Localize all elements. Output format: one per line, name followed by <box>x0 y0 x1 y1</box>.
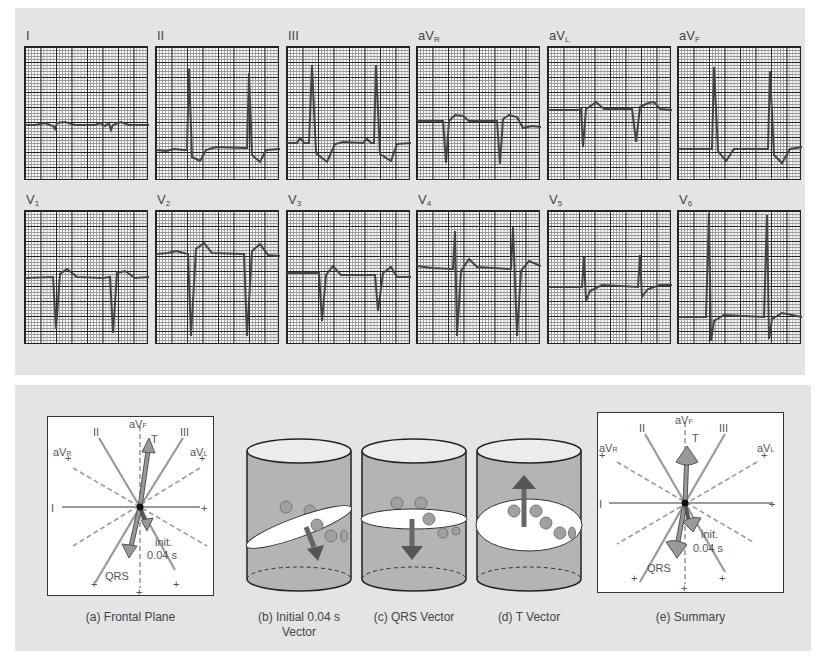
lead-V1: V1 <box>24 193 148 345</box>
svg-text:+: + <box>599 449 605 461</box>
lead-aVL: aVL <box>547 29 671 181</box>
lead-label: V <box>157 192 166 207</box>
axis-label-II: II <box>93 426 99 438</box>
lead-II: II <box>155 29 279 181</box>
svg-text:+: + <box>681 582 687 593</box>
svg-text:+: + <box>631 572 637 584</box>
ecg-strip <box>155 46 279 180</box>
cylinder-qrs-vector <box>359 437 469 593</box>
ecg-strip <box>677 46 801 180</box>
axis-label-I: I <box>51 502 54 514</box>
svg-text:+: + <box>91 578 97 590</box>
lead-label: aV <box>418 28 434 43</box>
init-label: init. <box>701 528 718 540</box>
lead-V2: V2 <box>155 193 279 345</box>
lead-V5: V5 <box>547 193 671 345</box>
lead-aVF: aVF <box>677 29 801 181</box>
svg-text:+: + <box>719 572 725 584</box>
lead-V6: V6 <box>677 193 801 345</box>
caption-a: (a) Frontal Plane <box>47 610 214 625</box>
svg-text:+: + <box>199 452 205 464</box>
lead-label: aV <box>549 28 565 43</box>
lead-label: aV <box>679 28 695 43</box>
svg-text:+: + <box>136 586 142 596</box>
svg-text:+: + <box>769 498 775 510</box>
vector-diagrams-panel: I II III aVR aVL aVF T QRS init. 0.04 s … <box>15 385 811 651</box>
t-label: T <box>151 433 158 445</box>
lead-label: I <box>26 28 30 43</box>
origin-dot <box>137 504 144 511</box>
ecg-strip <box>416 46 540 180</box>
lead-label: V <box>679 192 688 207</box>
lead-label: V <box>26 192 35 207</box>
init-time-label: 0.04 s <box>693 542 723 554</box>
cylinder-initial-vector <box>244 437 354 593</box>
lead-label: II <box>157 28 164 43</box>
caption-d: (d) T Vector <box>464 610 594 625</box>
t-label: T <box>692 432 699 444</box>
svg-text:+: + <box>65 452 71 464</box>
axis-label-III: III <box>180 426 189 438</box>
init-label: init. <box>155 536 172 548</box>
lead-I: I <box>24 29 148 181</box>
svg-text:+: + <box>173 578 179 590</box>
frontal-plane-diagram: I II III aVR aVL aVF T QRS init. 0.04 s … <box>47 416 214 596</box>
qrs-label: QRS <box>105 570 129 582</box>
svg-text:+: + <box>761 449 767 461</box>
ecg-strip <box>677 210 801 344</box>
ecg-strip <box>547 46 671 180</box>
lead-aVR: aVR <box>416 29 540 181</box>
ecg-strip <box>547 210 671 344</box>
ecg-strip <box>155 210 279 344</box>
summary-diagram: I II III aVR aVL aVF T QRS init. 0.04 s … <box>597 412 784 593</box>
lead-label: V <box>418 192 427 207</box>
axis-label-I: I <box>599 498 602 510</box>
lead-label: V <box>549 192 558 207</box>
svg-text:+: + <box>201 502 207 514</box>
ecg-strip <box>416 210 540 344</box>
lead-III: III <box>286 29 410 181</box>
cylinder-t-vector <box>474 437 584 593</box>
lead-V3: V3 <box>286 193 410 345</box>
caption-c: (c) QRS Vector <box>349 610 479 625</box>
origin-dot <box>682 500 689 507</box>
axis-label-III: III <box>719 422 728 434</box>
ecg-strip <box>24 210 148 344</box>
qrs-label: QRS <box>647 562 671 574</box>
lead-label: V <box>288 192 297 207</box>
ecg-strip <box>286 46 410 180</box>
axis-label-II: II <box>639 422 645 434</box>
lead-V4: V4 <box>416 193 540 345</box>
ecg-strip <box>286 210 410 344</box>
init-time-label: 0.04 s <box>147 549 177 561</box>
ecg-strip <box>24 46 148 180</box>
caption-e: (e) Summary <box>597 610 784 625</box>
lead-label: III <box>288 28 299 43</box>
caption-b: (b) Initial 0.04 sVector <box>234 610 364 640</box>
ecg-12-lead-panel: I II III aVR aVL aVF V1 <box>15 8 805 375</box>
